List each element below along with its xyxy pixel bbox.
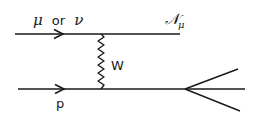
feynman-diagram: μ or ν 𝒩μ W p <box>0 0 261 116</box>
proton-label: p <box>56 97 64 110</box>
outgoing-lepton-symbol: 𝒩 <box>165 10 179 28</box>
w-boson-label: W <box>111 59 124 72</box>
outgoing-lepton-subscript: μ <box>178 19 185 30</box>
incoming-lepton-label: μ or ν <box>33 12 83 28</box>
jet-lower <box>185 89 240 111</box>
outgoing-lepton-label: 𝒩μ <box>165 11 186 27</box>
nu-symbol: ν <box>74 11 83 29</box>
mu-symbol: μ <box>33 11 43 29</box>
or-text: or <box>52 13 65 28</box>
w-propagator <box>98 34 104 89</box>
jet-upper <box>185 69 238 89</box>
